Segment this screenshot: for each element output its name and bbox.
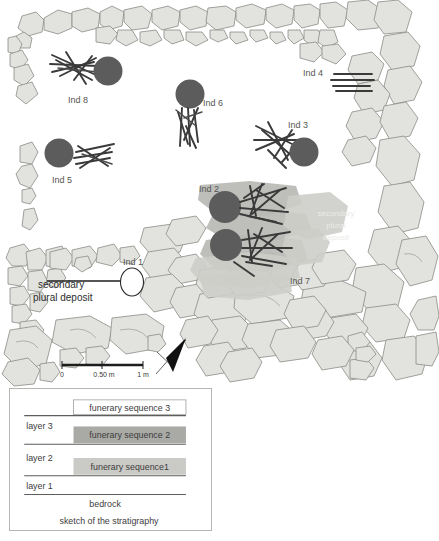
ind-8-skull: [94, 57, 123, 86]
ind-1-outline: [121, 268, 144, 296]
ind-6-skull: [176, 80, 205, 109]
annotation-line-2: plural deposit: [33, 292, 93, 303]
ind-6-bones: [176, 108, 202, 148]
scale-tick-0: 0: [60, 371, 64, 378]
ind-5-bones: [74, 144, 114, 168]
ind-2-skull: [209, 191, 241, 223]
funerary-sequence-3-label: funerary sequence 3: [89, 403, 170, 413]
individual-ind-6: Ind 6: [176, 80, 224, 149]
site-plan-figure: Ind 8 Ind 6 I: [0, 0, 439, 541]
bedrock-label: bedrock: [89, 499, 121, 509]
stratigraphy-caption: sketch of the stratigraphy: [60, 516, 160, 526]
stratigraphy-diagram: funerary sequence 3 layer 3 funerary seq…: [10, 389, 211, 530]
funerary-sequence-1-label: funerary sequence1: [91, 462, 169, 472]
ind-4-label: Ind 4: [303, 68, 323, 78]
ind-5-label: Ind 5: [52, 175, 72, 185]
ind-6-label: Ind 6: [203, 98, 223, 108]
scale-tick-half: 0.50 m: [93, 371, 115, 378]
ind-3-label: Ind 3: [288, 120, 308, 130]
annotation-faint-line-3: deposit: [323, 233, 350, 242]
ind-7-skull: [210, 229, 242, 261]
site-plan-drawing: Ind 8 Ind 6 I: [0, 0, 439, 390]
layer-1-label: layer 1: [26, 481, 53, 491]
annotation-faint-line-1: secondary: [318, 209, 355, 218]
ind-2-label: Ind 2: [199, 184, 219, 194]
layer-3-label: layer 3: [26, 421, 53, 431]
stratigraphy-legend-box: funerary sequence 3 layer 3 funerary seq…: [9, 388, 212, 531]
annotation-line-1: secondary: [38, 279, 84, 290]
individual-ind-8: Ind 8: [50, 52, 123, 105]
layer-2-label: layer 2: [26, 453, 53, 463]
scale-tick-one: 1 m: [137, 371, 149, 378]
individual-ind-3: Ind 3: [254, 120, 319, 168]
ind-8-label: Ind 8: [68, 95, 88, 105]
funerary-sequence-2-label: funerary sequence 2: [89, 430, 170, 440]
ind-7-label: Ind 7: [290, 276, 310, 286]
ind-8-bones: [50, 52, 98, 84]
annotation-faint-line-2: plural: [326, 221, 346, 230]
annotation-secondary-plural-deposit-left: secondary plural deposit: [33, 279, 93, 303]
ind-3-skull: [290, 138, 319, 167]
individual-ind-5: Ind 5: [45, 139, 115, 186]
ind-1-label: Ind 1: [123, 257, 143, 267]
ind-5-skull: [45, 139, 74, 168]
